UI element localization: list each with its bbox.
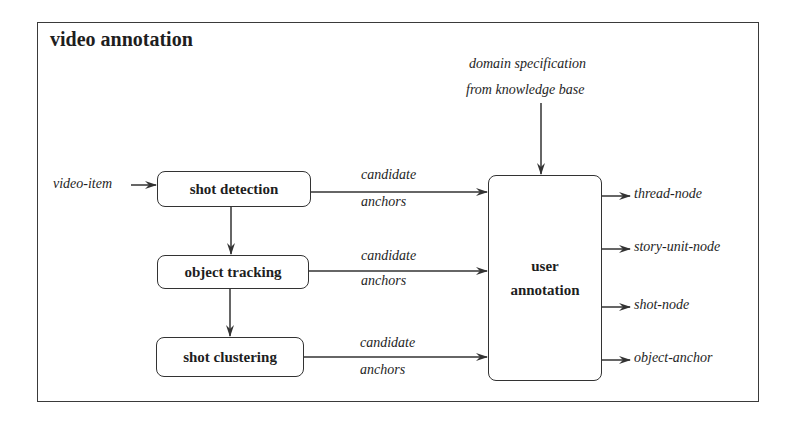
output-object-anchor: object-anchor	[634, 350, 713, 366]
edge-label-anchors: anchors	[361, 273, 406, 289]
process-object-tracking: object tracking	[157, 255, 309, 289]
edge-label-anchors: anchors	[361, 194, 406, 210]
process-label: object tracking	[184, 260, 281, 284]
knowledge-label-line1: domain specification	[469, 56, 586, 72]
user-annotation-box: user annotation	[488, 175, 602, 381]
output-story-unit-node: story-unit-node	[634, 239, 720, 255]
edge-label-candidate: candidate	[360, 335, 415, 351]
input-label-video-item: video-item	[53, 176, 112, 192]
process-label: shot clustering	[183, 345, 277, 369]
edge-label-candidate: candidate	[361, 167, 416, 183]
process-shot-detection: shot detection	[157, 171, 311, 207]
user-annotation-line2: annotation	[510, 278, 579, 302]
edge-label-candidate: candidate	[361, 248, 416, 264]
output-shot-node: shot-node	[634, 297, 689, 313]
process-shot-clustering: shot clustering	[156, 337, 304, 377]
process-label: shot detection	[190, 177, 279, 201]
edge-label-anchors: anchors	[360, 362, 405, 378]
knowledge-label-line2: from knowledge base	[466, 82, 584, 98]
output-thread-node: thread-node	[634, 186, 702, 202]
user-annotation-line1: user	[531, 254, 559, 278]
